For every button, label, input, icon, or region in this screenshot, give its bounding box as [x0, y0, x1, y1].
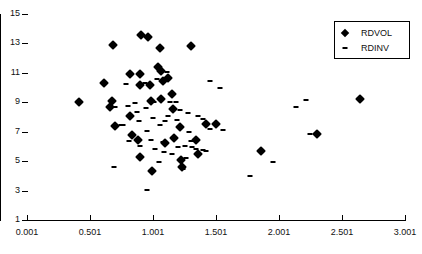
- data-point-rdvol: [108, 40, 118, 50]
- data-point-rdvol: [133, 135, 143, 145]
- x-axis-tick: [27, 215, 28, 221]
- x-axis-tick-label: 1.501: [192, 228, 240, 237]
- data-point-rdinv: [137, 120, 142, 122]
- data-point-rdinv: [124, 83, 129, 85]
- data-point-rdinv: [183, 145, 188, 147]
- data-point-rdinv: [181, 168, 186, 170]
- data-point-rdinv: [150, 117, 155, 119]
- data-point-rdvol: [135, 69, 145, 79]
- data-point-rdinv: [187, 131, 192, 133]
- y-axis-tick: [22, 161, 28, 162]
- data-point-rdinv: [184, 157, 189, 159]
- x-axis-tick: [216, 215, 217, 221]
- data-point-rdinv: [138, 145, 143, 147]
- data-point-rdinv: [132, 102, 137, 104]
- data-point-rdinv: [200, 118, 205, 120]
- data-point-rdvol: [147, 166, 157, 176]
- y-axis-tick-label: 5: [2, 156, 20, 165]
- data-point-rdvol: [186, 41, 196, 51]
- data-point-rdvol: [135, 152, 145, 162]
- data-point-rdvol: [74, 97, 84, 107]
- data-point-rdinv: [126, 140, 131, 142]
- data-point-rdinv: [144, 130, 149, 132]
- y-axis-tick-label: 15: [2, 9, 20, 18]
- data-point-rdvol: [168, 104, 178, 114]
- y-axis-tick-label: 3: [2, 186, 20, 195]
- data-point-rdvol: [355, 94, 365, 104]
- data-point-rdinv: [304, 99, 309, 101]
- data-point-rdinv: [208, 128, 213, 130]
- data-point-rdinv: [111, 166, 116, 168]
- data-point-rdvol: [145, 80, 155, 90]
- y-axis-tick-label: 7: [2, 127, 20, 136]
- x-axis-tick: [153, 215, 154, 221]
- data-point-rdinv: [207, 80, 212, 82]
- data-point-rdinv: [156, 161, 161, 163]
- data-point-rdinv: [149, 139, 154, 141]
- chart-legend: RDVOL RDINV: [334, 21, 410, 59]
- y-axis-tick: [22, 102, 28, 103]
- x-axis-tick: [405, 215, 406, 221]
- data-point-rdinv: [134, 111, 139, 113]
- data-point-rdvol: [99, 78, 109, 88]
- data-point-rdinv: [162, 120, 167, 122]
- x-axis-tick: [279, 215, 280, 221]
- data-point-rdinv: [142, 82, 147, 84]
- x-axis-tick-label: 0.001: [3, 228, 51, 237]
- data-point-rdvol: [177, 162, 187, 172]
- y-axis-tick: [22, 132, 28, 133]
- data-point-rdinv: [188, 140, 193, 142]
- data-point-rdinv: [307, 133, 312, 135]
- data-point-rdinv: [203, 150, 208, 152]
- x-axis-tick-label: 2.501: [318, 228, 366, 237]
- y-axis-tick: [22, 14, 28, 15]
- data-point-rdvol: [312, 129, 322, 139]
- data-point-rdinv: [178, 109, 183, 111]
- data-point-rdinv: [172, 137, 177, 139]
- data-point-rdinv: [174, 101, 179, 103]
- data-point-rdinv: [247, 175, 252, 177]
- data-point-rdinv: [157, 124, 162, 126]
- data-point-rdinv: [152, 101, 157, 103]
- y-axis-tick-label: 11: [2, 68, 20, 77]
- y-axis-tick-label: 1: [2, 215, 20, 224]
- x-axis-tick: [90, 215, 91, 221]
- data-point-rdinv: [113, 106, 118, 108]
- data-point-rdvol: [175, 122, 185, 132]
- data-point-rdinv: [176, 146, 181, 148]
- data-point-rdvol: [167, 89, 177, 99]
- data-point-rdvol: [256, 146, 266, 156]
- x-axis-tick-label: 1.001: [129, 228, 177, 237]
- data-point-rdinv: [166, 115, 171, 117]
- data-point-rdinv: [270, 161, 275, 163]
- data-point-rdinv: [194, 148, 199, 150]
- data-point-rdinv: [161, 141, 166, 143]
- data-point-rdinv: [162, 151, 167, 153]
- x-axis-tick: [342, 215, 343, 221]
- legend-entry-rdinv: RDINV: [335, 41, 411, 56]
- y-axis-line: [0, 14, 1, 221]
- data-point-rdinv: [167, 101, 172, 103]
- data-point-rdinv: [217, 87, 222, 89]
- data-point-rdvol: [156, 94, 166, 104]
- chart-title: [0, 0, 422, 4]
- x-axis-tick-label: 3.001: [381, 228, 422, 237]
- diamond-marker-icon: [341, 29, 349, 37]
- data-point-rdvol: [125, 69, 135, 79]
- data-point-rdinv: [293, 106, 298, 108]
- data-point-rdinv: [143, 107, 148, 109]
- data-point-rdinv: [120, 124, 125, 126]
- data-point-rdinv: [220, 129, 225, 131]
- legend-label-rdinv: RDINV: [361, 42, 389, 54]
- x-axis-tick-label: 2.001: [255, 228, 303, 237]
- legend-entry-rdvol: RDVOL: [335, 26, 411, 41]
- data-point-rdinv: [186, 112, 191, 114]
- data-point-rdinv: [169, 153, 174, 155]
- x-axis-tick-label: 0.501: [66, 228, 114, 237]
- data-point-rdvol: [155, 43, 165, 53]
- data-point-rdinv: [196, 115, 201, 117]
- y-axis-tick-label: 9: [2, 97, 20, 106]
- data-point-rdinv: [164, 71, 169, 73]
- y-axis-tick: [22, 73, 28, 74]
- y-axis-tick-label: 13: [2, 38, 20, 47]
